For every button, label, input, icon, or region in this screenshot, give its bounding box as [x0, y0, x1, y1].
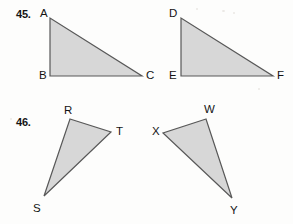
triangle-rst-shape [44, 119, 111, 196]
problem-number-46: 46. [16, 117, 31, 128]
vertex-label-c: C [146, 70, 154, 82]
problem-number-45: 45. [16, 9, 31, 20]
triangle-abc-shape [50, 18, 142, 76]
vertex-label-f: F [277, 70, 284, 82]
figure-page: 45. 46. A B C D E F R T S W X Y [0, 0, 293, 224]
triangle-wxy-shape [163, 119, 232, 198]
vertex-label-s: S [33, 203, 41, 215]
vertex-label-t: T [116, 126, 123, 138]
geometry-figures [0, 0, 293, 224]
vertex-label-w: W [204, 104, 215, 116]
vertex-label-e: E [169, 70, 177, 82]
vertex-label-b: B [39, 70, 47, 82]
vertex-label-y: Y [230, 205, 238, 217]
vertex-label-a: A [40, 8, 48, 20]
vertex-label-d: D [169, 8, 177, 20]
vertex-label-r: R [64, 105, 72, 117]
vertex-label-x: X [152, 126, 160, 138]
triangle-def-shape [181, 18, 273, 76]
